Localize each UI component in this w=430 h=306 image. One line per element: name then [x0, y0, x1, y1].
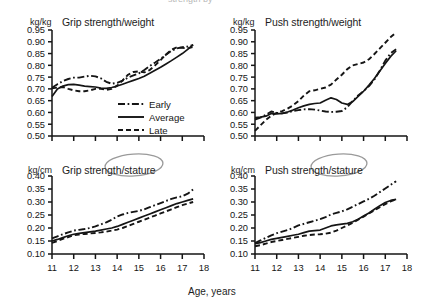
panel-push-weight-title: Push strength/weight: [265, 16, 361, 28]
x-tick-label: 14: [315, 263, 325, 273]
series-line-average: [255, 51, 396, 118]
legend-label-late: Late: [149, 125, 168, 136]
y-tick-label: 0.70: [27, 84, 45, 94]
panel-push-stature-title: Push strength/stature: [265, 164, 363, 176]
y-tick-label: 0.20: [27, 223, 45, 233]
panel-grip-stature-title: Grip strength/stature: [62, 164, 156, 176]
x-axis-caption: Age, years: [188, 286, 236, 297]
y-tick-label: 0.55: [230, 120, 248, 130]
series-line-average: [255, 199, 396, 243]
panel-push-stature-plot: 0.400.350.300.250.200.150.10111213141516…: [215, 156, 430, 306]
y-tick-label: 0.25: [27, 210, 45, 220]
series-line-early: [255, 49, 396, 119]
series-line-late: [52, 202, 193, 243]
y-tick-label: 0.75: [230, 73, 248, 83]
series-line-late: [255, 32, 396, 130]
panel-grip-weight: kg/kg Grip strength/weight 0.950.900.850…: [0, 8, 215, 156]
legend-label-early: Early: [149, 99, 171, 110]
series-line-average: [52, 45, 193, 97]
y-tick-label: 0.50: [27, 131, 45, 141]
cropped-header-text: strength by: [168, 0, 213, 4]
y-tick-label: 0.55: [27, 120, 45, 130]
panel-push-stature-unit: kg/cm: [231, 165, 255, 175]
y-tick-label: 0.85: [27, 49, 45, 59]
panel-grip-stature-unit: kg/cm: [28, 165, 52, 175]
x-tick-label: 12: [272, 263, 282, 273]
x-tick-label: 14: [112, 263, 122, 273]
x-tick-label: 15: [134, 263, 144, 273]
series-line-early: [52, 190, 193, 239]
y-tick-label: 0.10: [230, 249, 248, 259]
panel-push-weight: kg/kg Push strength/weight 0.950.900.850…: [215, 8, 430, 156]
y-tick-label: 0.30: [27, 197, 45, 207]
x-tick-label: 18: [402, 263, 412, 273]
x-tick-label: 13: [293, 263, 303, 273]
y-tick-label: 0.75: [27, 73, 45, 83]
x-tick-label: 18: [199, 263, 209, 273]
x-tick-label: 16: [155, 263, 165, 273]
y-tick-label: 0.65: [230, 96, 248, 106]
x-tick-label: 15: [337, 263, 347, 273]
y-tick-label: 0.85: [230, 49, 248, 59]
y-tick-label: 0.35: [27, 184, 45, 194]
panel-grip-stature-plot: 0.400.350.300.250.200.150.10111213141516…: [0, 156, 215, 306]
y-tick-label: 0.90: [230, 37, 248, 47]
panel-push-weight-unit: kg/kg: [233, 17, 255, 27]
y-tick-label: 0.15: [230, 236, 248, 246]
y-tick-label: 0.80: [230, 61, 248, 71]
legend-label-average: Average: [149, 112, 185, 123]
x-tick-label: 17: [380, 263, 390, 273]
panel-push-stature: kg/cm Push strength/stature 0.400.350.30…: [215, 156, 430, 306]
panel-grip-weight-plot: 0.950.900.850.800.750.700.650.600.550.50…: [0, 8, 215, 156]
y-tick-label: 0.90: [27, 37, 45, 47]
panel-grip-weight-title: Grip strength/weight: [62, 16, 154, 28]
panel-grip-weight-unit: kg/kg: [30, 17, 52, 27]
x-tick-label: 11: [250, 263, 260, 273]
y-tick-label: 0.60: [27, 108, 45, 118]
x-tick-label: 13: [90, 263, 100, 273]
y-tick-label: 0.80: [27, 61, 45, 71]
y-tick-label: 0.20: [230, 223, 248, 233]
x-tick-label: 17: [177, 263, 187, 273]
y-tick-label: 0.30: [230, 197, 248, 207]
x-tick-label: 11: [47, 263, 57, 273]
y-tick-label: 0.35: [230, 184, 248, 194]
y-tick-label: 0.25: [230, 210, 248, 220]
panel-push-weight-plot: 0.950.900.850.800.750.700.650.600.550.50: [215, 8, 430, 156]
strength-by-age-figure: strength by kg/kg Grip strength/weight 0…: [0, 0, 430, 306]
y-tick-label: 0.65: [27, 96, 45, 106]
x-tick-label: 16: [358, 263, 368, 273]
panel-grip-stature: kg/cm Grip strength/stature 0.400.350.30…: [0, 156, 215, 306]
y-tick-label: 0.50: [230, 131, 248, 141]
cropped-header-fragment: strength by: [0, 0, 430, 7]
series-line-average: [52, 199, 193, 241]
y-tick-label: 0.15: [27, 236, 45, 246]
series-line-early: [255, 181, 396, 243]
y-tick-label: 0.60: [230, 108, 248, 118]
y-tick-label: 0.10: [27, 249, 45, 259]
x-tick-label: 12: [69, 263, 79, 273]
y-tick-label: 0.70: [230, 84, 248, 94]
